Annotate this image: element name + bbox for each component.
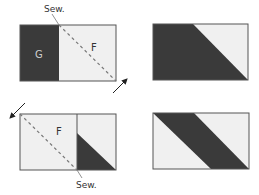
panel-top-left: Sew. G F: [20, 4, 127, 93]
sew-leader-line: [77, 170, 82, 178]
panel-bottom-right: [153, 113, 249, 169]
sew-label: Sew.: [76, 180, 97, 190]
panel-top-right: [153, 24, 248, 80]
sew-leader-line: [52, 14, 59, 25]
fabric-label-f: F: [56, 126, 62, 137]
fabric-label-f: F: [91, 42, 97, 53]
quilt-diagram: Sew. G F Sew. F: [0, 0, 259, 195]
fabric-label-g: G: [35, 49, 43, 60]
panel-bottom-left: Sew. F: [10, 103, 116, 190]
sew-label: Sew.: [44, 4, 65, 14]
